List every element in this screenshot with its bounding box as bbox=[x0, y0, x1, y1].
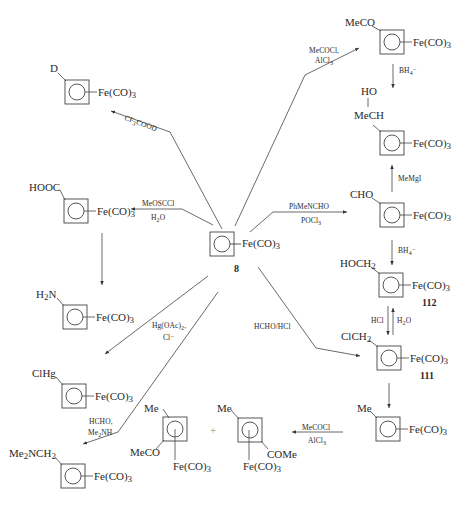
substituent-label: H2N bbox=[36, 289, 56, 300]
fe-label: Fe(CO)3 bbox=[410, 353, 448, 364]
reagent-line-1: Hg(OAc)2, bbox=[152, 322, 186, 330]
reagent-borohydride-1: BH4⁻ bbox=[399, 67, 417, 75]
reagent-line-1: MeCOCl, bbox=[309, 47, 339, 55]
reagent-line-2: Me2NH bbox=[88, 429, 112, 437]
reagent-line-2: AlCl3 bbox=[315, 57, 333, 65]
reagent-water: H2O bbox=[397, 317, 411, 325]
reaction-scheme-lines bbox=[0, 0, 469, 510]
fe-label: Fe(CO)3 bbox=[96, 312, 134, 323]
compound-number-8: 8 bbox=[234, 264, 239, 274]
substituent-label: Me2NCH2 bbox=[9, 448, 56, 459]
fe-label: Fe(CO)3 bbox=[412, 280, 450, 291]
substituent-label: ClHg bbox=[32, 368, 56, 379]
center-fe-label: Fe(CO)3 bbox=[242, 238, 280, 249]
substituent-label: Me bbox=[357, 403, 372, 414]
fe-label: Fe(CO)3 bbox=[413, 210, 451, 221]
center-ring bbox=[210, 232, 241, 256]
reagent-line-2: Cl⁻ bbox=[163, 334, 174, 342]
reagent-line-1: MeOSCCl bbox=[142, 200, 174, 208]
reagent-line-2: H2O bbox=[151, 214, 165, 222]
fe-label: Fe(CO)3 bbox=[409, 424, 447, 435]
reagent-line-1: MeCOCl bbox=[302, 424, 330, 432]
reagent-borohydride-2: BH4⁻ bbox=[398, 247, 416, 255]
fe-label: Fe(CO)3 bbox=[97, 206, 135, 217]
substituent-label: MeCH bbox=[354, 110, 384, 121]
reagent-line-2: POCl3 bbox=[301, 217, 321, 225]
reagent-line-2: AlCl3 bbox=[308, 437, 326, 445]
fe-label: Fe(CO)3 bbox=[413, 138, 451, 149]
plus-sign: + bbox=[210, 425, 216, 436]
substituent-label: ClCH2 bbox=[341, 331, 371, 342]
fe-label: Fe(CO)3 bbox=[243, 461, 281, 472]
methyl-label: Me bbox=[144, 403, 159, 414]
substituent-label: HOCH2 bbox=[340, 258, 376, 269]
fe-label: Fe(CO)3 bbox=[413, 37, 451, 48]
reagent-hcl: HCl bbox=[371, 317, 384, 325]
substituent-label: CHO bbox=[350, 189, 373, 200]
reagent-line-1: HCHO, bbox=[89, 418, 113, 426]
fe-label: Fe(CO)3 bbox=[95, 391, 133, 402]
reagent-line-1: PhMeNCHO bbox=[289, 203, 329, 211]
compound-number-111: 111 bbox=[420, 371, 434, 381]
reagent-chloromethylation: HCHO/HCl bbox=[254, 323, 291, 331]
substituent-label: D bbox=[50, 63, 58, 74]
acetyl-label: COMe bbox=[267, 449, 297, 460]
compound-number-112: 112 bbox=[422, 298, 436, 308]
acetyl-label: MeCO bbox=[130, 447, 160, 458]
fe-label: Fe(CO)3 bbox=[173, 461, 211, 472]
reagent-grignard: MeMgI bbox=[398, 175, 421, 183]
fe-label: Fe(CO)3 bbox=[94, 471, 132, 482]
methyl-label: Me bbox=[217, 403, 232, 414]
substituent-label: MeCO bbox=[345, 17, 375, 28]
fe-label: Fe(CO)3 bbox=[98, 87, 136, 98]
substituent-label: HOOC bbox=[29, 182, 60, 193]
hydroxy-label: HO bbox=[361, 86, 377, 97]
